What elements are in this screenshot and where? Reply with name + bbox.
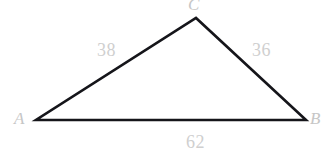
geometry-figure: A B C 38 36 62 xyxy=(0,0,328,167)
vertex-label-b: B xyxy=(310,110,320,127)
triangle-outline xyxy=(36,18,306,120)
vertex-label-c: C xyxy=(188,0,199,13)
side-length-label-bc: 36 xyxy=(252,41,271,59)
triangle-shape xyxy=(0,0,328,167)
side-length-label-ac: 38 xyxy=(97,41,116,59)
side-length-label-ab: 62 xyxy=(186,133,205,151)
vertex-label-a: A xyxy=(14,110,24,127)
